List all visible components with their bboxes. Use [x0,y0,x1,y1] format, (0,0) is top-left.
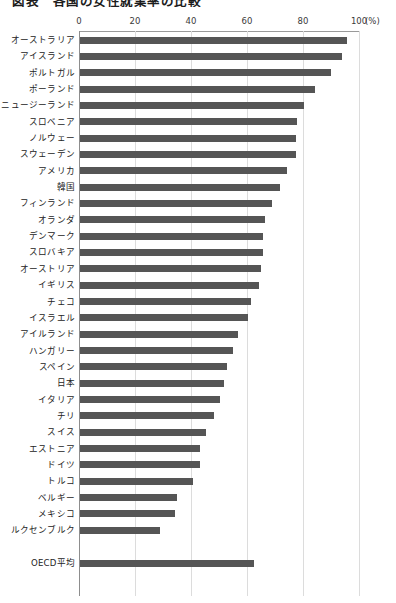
bar-label-スイス: スイス [47,426,75,438]
bar-チェコ [80,298,251,305]
bar-アイルランド [80,331,238,338]
bar-スペイン [80,363,227,370]
bar-row: ハンガリー [0,344,396,360]
bar-row: ルクセンブルク [0,523,396,539]
bar-label-日本: 日本 [57,377,75,389]
bar-スロバキア [80,249,263,256]
bar-row: アイルランド [0,327,396,343]
bar-ニュージーランド [80,102,304,109]
x-tick-label-0: 0 [76,16,81,26]
bar-label-韓国: 韓国 [57,181,75,193]
bar-label-OECD平均: OECD平均 [31,557,75,569]
bar-row: イギリス [0,278,396,294]
bar-OECD平均 [80,560,254,567]
bar-row: オーストラリア [0,33,396,49]
bar-chart: 020406080100(%) オーストラリアアイスランドポルトガルポーランドニ… [0,0,396,603]
bar-label-スウェーデン: スウェーデン [20,148,75,160]
bar-ポーランド [80,86,315,93]
bar-label-イギリス: イギリス [38,279,75,291]
bar-row: スイス [0,425,396,441]
bar-row: スウェーデン [0,147,396,163]
bar-row: オーストリア [0,262,396,278]
bar-デンマーク [80,233,263,240]
bar-イスラエル [80,314,248,321]
bar-スイス [80,429,206,436]
bar-ポルトガル [80,69,331,76]
bar-row: ドイツ [0,458,396,474]
bar-label-ノルウェー: ノルウェー [29,132,75,144]
bar-label-ポーランド: ポーランド [29,83,75,95]
bar-row: ポーランド [0,82,396,98]
bar-row: OECD平均 [0,556,396,572]
bar-row: アメリカ [0,164,396,180]
bar-メキシコ [80,510,175,517]
bar-row: イスラエル [0,311,396,327]
bar-label-ハンガリー: ハンガリー [29,345,75,357]
bar-row: アイスランド [0,49,396,65]
bar-row: エストニア [0,442,396,458]
bar-韓国 [80,184,280,191]
bar-label-エストニア: エストニア [29,443,75,455]
bar-row: 韓国 [0,180,396,196]
bar-label-スペイン: スペイン [39,361,75,373]
x-tick-label-20: 20 [130,16,141,26]
bar-アイスランド [80,53,342,60]
x-tick-label-60: 60 [242,16,253,26]
x-axis-unit-label: (%) [365,16,380,26]
bar-フィンランド [80,200,272,207]
bar-チリ [80,412,214,419]
bar-label-ドイツ: ドイツ [47,459,75,471]
bar-label-メキシコ: メキシコ [38,508,75,520]
bar-label-スロベニア: スロベニア [29,116,75,128]
bar-label-ベルギー: ベルギー [38,492,75,504]
bar-label-アイルランド: アイルランド [20,328,75,340]
x-axis-tick-labels: 020406080100(%) [0,16,396,29]
bar-row: オランダ [0,213,396,229]
bar-イギリス [80,282,259,289]
bar-スウェーデン [80,151,296,158]
bar-label-イタリア: イタリア [38,394,75,406]
bar-オーストリア [80,265,261,272]
bar-label-トルコ: トルコ [47,475,75,487]
bar-label-オーストラリア: オーストラリア [11,34,75,46]
bar-rows: オーストラリアアイスランドポルトガルポーランドニュージーランドスロベニアノルウェ… [0,33,396,572]
bar-ベルギー [80,494,177,501]
bar-row: イタリア [0,393,396,409]
bar-label-ニュージーランド: ニュージーランド [1,99,75,111]
bar-label-デンマーク: デンマーク [29,230,75,242]
bar-イタリア [80,396,220,403]
bar-row: スロベニア [0,115,396,131]
bar-ルクセンブルク [80,527,160,534]
bar-label-アイスランド: アイスランド [20,50,75,62]
bar-label-スロバキア: スロバキア [29,246,75,258]
bar-ドイツ [80,461,200,468]
bar-label-チェコ: チェコ [47,296,75,308]
bar-row: ノルウェー [0,131,396,147]
bar-label-ポルトガル: ポルトガル [29,67,75,79]
bar-row: メキシコ [0,507,396,523]
bar-label-オーストリア: オーストリア [20,263,75,275]
bar-row: ポルトガル [0,66,396,82]
bar-label-ルクセンブルク: ルクセンブルク [11,524,75,536]
row-spacer [0,540,396,556]
bar-トルコ [80,478,193,485]
x-tick-label-80: 80 [298,16,309,26]
bar-row: スロバキア [0,245,396,261]
bar-row: トルコ [0,474,396,490]
bar-row: 日本 [0,376,396,392]
bar-row: チリ [0,409,396,425]
x-tick-label-40: 40 [186,16,197,26]
bar-ノルウェー [80,135,296,142]
bar-オーストラリア [80,37,347,44]
bar-label-オランダ: オランダ [38,214,75,226]
bar-label-フィンランド: フィンランド [20,197,75,209]
bar-オランダ [80,216,265,223]
bar-row: スペイン [0,360,396,376]
bar-スロベニア [80,118,297,125]
bar-row: フィンランド [0,196,396,212]
bar-エストニア [80,445,200,452]
bar-アメリカ [80,167,287,174]
bar-row: チェコ [0,295,396,311]
bar-row: ニュージーランド [0,98,396,114]
bar-label-イスラエル: イスラエル [29,312,75,324]
